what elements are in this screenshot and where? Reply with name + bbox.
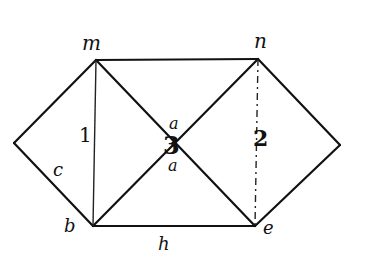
edge-left-apex-b [14, 143, 93, 226]
vertical-m-b [93, 60, 96, 226]
edge-right-apex-e [255, 145, 340, 226]
edge-m-n [96, 59, 258, 60]
label-angle-a-top: a [169, 114, 179, 133]
label-vertex-b: b [64, 215, 76, 236]
label-vertex-e: e [263, 217, 274, 238]
label-side-h: h [158, 233, 170, 254]
label-region-1: 1 [79, 123, 92, 147]
label-angle-a-bottom: a [168, 156, 178, 175]
edge-n-right-apex [258, 59, 340, 145]
geometric-diagram: m n b e 1 2 3 a a c h [0, 0, 365, 272]
label-region-2: 2 [253, 125, 268, 151]
label-vertex-m: m [82, 31, 101, 55]
label-vertex-n: n [254, 29, 267, 53]
label-side-c: c [53, 159, 63, 180]
